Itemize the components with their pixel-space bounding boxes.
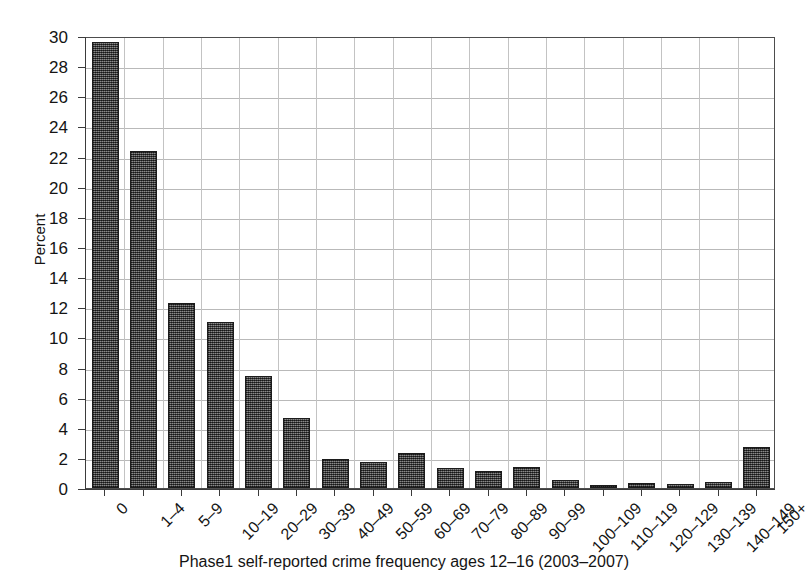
x-axis-tick [488,489,489,496]
y-axis-tick [78,127,86,128]
y-axis-tick-label: 22 [26,150,68,167]
y-axis-tick-label: 6 [26,391,68,408]
x-axis-tick-label: 30–39 [316,500,359,543]
x-axis-tick-label: 10–19 [239,500,282,543]
x-axis-tick [526,489,527,496]
bar [590,485,617,488]
y-axis-title: Percent [32,195,47,285]
y-axis-tick-label: 10 [26,330,68,347]
x-axis-tick [296,489,297,496]
x-axis-tick [104,489,105,496]
y-axis-tick [78,429,86,430]
x-axis-tick-label: 1–4 [157,500,187,530]
y-axis-tick [78,308,86,309]
bar [398,453,425,488]
x-axis-tick-label: 20–29 [278,500,321,543]
y-axis-line [85,37,86,489]
x-axis-tick [219,489,220,496]
y-axis-tick [78,338,86,339]
y-axis-tick-label: 26 [26,89,68,106]
x-axis-tick-label: 90–99 [546,500,589,543]
bar [322,459,349,488]
y-axis-tick-label: 2 [26,451,68,468]
bar [743,447,770,488]
x-axis-tick [258,489,259,496]
y-axis-tick [78,67,86,68]
y-axis-tick [78,37,86,38]
y-axis-tick [78,97,86,98]
x-axis-tick-label: 40–49 [354,500,397,543]
bar [207,322,234,488]
bar [552,480,579,488]
x-axis-title: Phase1 self-reported crime frequency age… [0,553,808,571]
bar [283,418,310,488]
bar [168,303,195,488]
y-axis-tick-label: 4 [26,421,68,438]
x-axis-tick [603,489,604,496]
bar [245,376,272,488]
bars-layer [86,38,774,488]
y-axis-tick [78,218,86,219]
y-axis-tick-label: 0 [26,481,68,498]
bar [130,151,157,489]
bar [628,483,655,488]
y-axis-tick [78,278,86,279]
bar [92,42,119,488]
x-axis-tick-label: 60–69 [431,500,474,543]
x-axis-tick [449,489,450,496]
bar [437,468,464,488]
x-axis-tick [641,489,642,496]
x-axis-tick-label: 0 [114,500,132,518]
x-axis-tick-label: 80–89 [508,500,551,543]
x-axis-tick [679,489,680,496]
y-axis-tick-label: 24 [26,119,68,136]
x-axis-tick [334,489,335,496]
x-axis-tick [756,489,757,496]
bar [360,462,387,488]
y-axis-tick [78,188,86,189]
x-axis-tick [181,489,182,496]
y-axis-tick-label: 30 [26,29,68,46]
bar [705,482,732,488]
y-axis-tick-label: 12 [26,300,68,317]
x-axis-tick-label: 70–79 [469,500,512,543]
bar [667,484,694,488]
y-axis-tick-label: 8 [26,361,68,378]
bar-chart-figure: 024681012141618202224262830 01–45–910–19… [0,0,808,579]
plot-area [85,37,775,489]
x-axis-tick [718,489,719,496]
x-axis-line [85,489,775,490]
y-axis-tick [78,489,86,490]
bar [475,471,502,488]
x-axis-tick-label: 50–59 [393,500,436,543]
y-axis-tick [78,369,86,370]
y-axis-tick [78,399,86,400]
x-axis-tick [143,489,144,496]
x-axis-tick [373,489,374,496]
y-axis-tick [78,459,86,460]
bar [513,467,540,488]
y-axis-tick [78,248,86,249]
x-axis-tick [411,489,412,496]
x-axis-tick-label: 5–9 [196,500,226,530]
y-axis-tick-label: 28 [26,59,68,76]
y-axis-tick [78,158,86,159]
x-axis-tick [564,489,565,496]
